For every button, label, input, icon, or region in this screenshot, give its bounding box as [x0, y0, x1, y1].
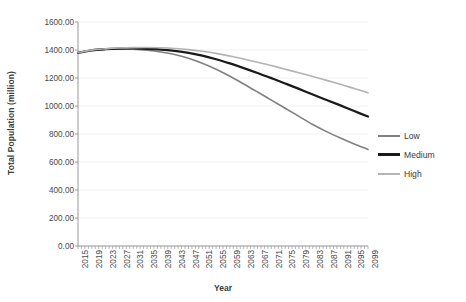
x-tick-label: 2063 — [247, 250, 256, 268]
legend-item-medium: Medium — [378, 145, 464, 164]
x-tick-label: 2043 — [178, 250, 187, 268]
x-axis-tick-labels: 2015201920232027203120352039204320472051… — [0, 250, 466, 284]
x-tick-label: 2075 — [288, 250, 297, 268]
x-tick-label: 2095 — [357, 250, 366, 268]
x-tick-label: 2039 — [164, 250, 173, 268]
x-tick-label: 2035 — [150, 250, 159, 268]
x-tick-label: 2055 — [219, 250, 228, 268]
x-tick-label: 2019 — [95, 250, 104, 268]
chart-legend: Low Medium High — [378, 126, 464, 183]
x-tick-label: 2071 — [275, 250, 284, 268]
legend-label-high: High — [404, 169, 422, 179]
legend-item-low: Low — [378, 126, 464, 145]
x-tick-label: 2031 — [136, 250, 145, 268]
x-tick-label: 2087 — [330, 250, 339, 268]
x-tick-label: 2047 — [192, 250, 201, 268]
x-tick-label: 2059 — [233, 250, 242, 268]
x-tick-label: 2079 — [302, 250, 311, 268]
x-tick-label: 2015 — [81, 250, 90, 268]
x-tick-label: 2067 — [261, 250, 270, 268]
x-tick-label: 2083 — [316, 250, 325, 268]
x-tick-label: 2091 — [344, 250, 353, 268]
x-axis-title: Year — [78, 283, 368, 293]
x-tick-label: 2027 — [123, 250, 132, 268]
x-tick-label: 2023 — [109, 250, 118, 268]
x-tick-label: 2051 — [205, 250, 214, 268]
legend-label-medium: Medium — [404, 150, 435, 160]
x-tick-label: 2099 — [371, 250, 380, 268]
legend-label-low: Low — [404, 131, 420, 141]
series-line-high — [78, 47, 368, 92]
legend-swatch-high — [378, 173, 400, 175]
population-projection-chart: Total Population (million) 0.00200.00400… — [0, 0, 466, 302]
legend-swatch-medium — [378, 153, 400, 156]
legend-swatch-low — [378, 135, 400, 137]
legend-item-high: High — [378, 164, 464, 183]
